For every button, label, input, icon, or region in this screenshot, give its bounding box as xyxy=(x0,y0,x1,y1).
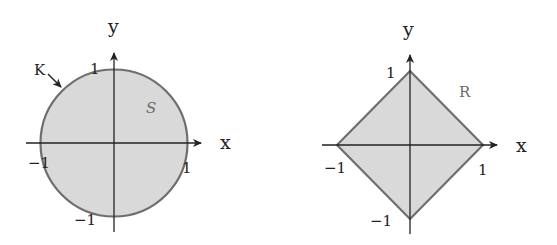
y-axis-label: y xyxy=(402,18,414,40)
tick-x-pos: 1 xyxy=(478,161,488,179)
right-figure: x y 1 −1 1 −1 R xyxy=(322,18,527,234)
tick-x-neg: −1 xyxy=(28,154,50,172)
tick-x-neg: −1 xyxy=(324,159,346,177)
boundary-label-k: K xyxy=(34,61,46,79)
tick-y-neg: −1 xyxy=(74,211,96,229)
tick-x-pos: 1 xyxy=(182,159,192,177)
x-axis-label: x xyxy=(220,131,231,153)
tick-y-neg: −1 xyxy=(370,212,392,230)
tick-y-pos: 1 xyxy=(386,64,396,82)
y-axis-label: y xyxy=(107,15,119,37)
diagram-canvas: x y 1 −1 1 −1 S K x y 1 −1 1 −1 R xyxy=(0,0,557,245)
x-axis-label: x xyxy=(516,134,527,156)
region-label-r: R xyxy=(459,83,471,101)
left-figure: x y 1 −1 1 −1 S K xyxy=(26,15,231,232)
region-label-s: S xyxy=(146,99,156,117)
boundary-pointer-arrow xyxy=(48,74,61,87)
tick-y-pos: 1 xyxy=(90,60,100,78)
